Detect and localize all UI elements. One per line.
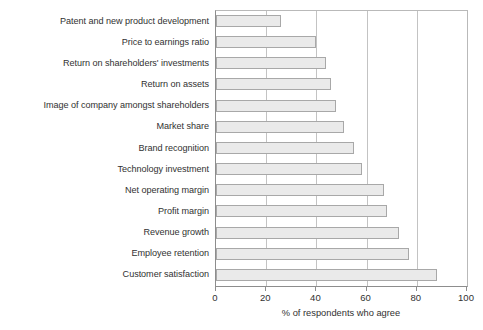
category-label: Technology investment — [0, 164, 209, 174]
tick-label: 100 — [446, 292, 483, 304]
bar — [216, 142, 354, 154]
tick-20 — [265, 286, 266, 291]
category-label: Patent and new product development — [0, 16, 209, 26]
bar-row — [216, 117, 467, 138]
tick-0 — [215, 286, 216, 291]
x-axis-title: % of respondents who agree — [215, 307, 467, 319]
category-label: Market share — [0, 121, 209, 131]
bar-row — [216, 265, 467, 286]
category-label: Net operating margin — [0, 185, 209, 195]
tick-label: 0 — [195, 292, 235, 304]
category-label: Image of company amongst shareholders — [0, 100, 209, 110]
tick-label: 40 — [295, 292, 335, 304]
bar — [216, 269, 437, 281]
bar — [216, 121, 344, 133]
category-label: Price to earnings ratio — [0, 37, 209, 47]
bar-row — [216, 244, 467, 265]
bar-row — [216, 180, 467, 201]
category-label: Employee retention — [0, 248, 209, 258]
tick-40 — [315, 286, 316, 291]
bar — [216, 78, 331, 90]
tick-80 — [416, 286, 417, 291]
category-label: Brand recognition — [0, 143, 209, 153]
bar-row — [216, 74, 467, 95]
bar — [216, 184, 384, 196]
bar — [216, 227, 399, 239]
category-label: Revenue growth — [0, 227, 209, 237]
bar — [216, 36, 316, 48]
bar-row — [216, 32, 467, 53]
tick-label: 60 — [346, 292, 386, 304]
bar-row — [216, 96, 467, 117]
tick-60 — [366, 286, 367, 291]
bar-row — [216, 223, 467, 244]
bar-row — [216, 11, 467, 32]
bar — [216, 57, 326, 69]
bar — [216, 163, 362, 175]
tick-label: 20 — [245, 292, 285, 304]
bar-row — [216, 201, 467, 222]
tick-label: 80 — [396, 292, 436, 304]
bar — [216, 205, 387, 217]
bar — [216, 15, 281, 27]
category-label: Profit margin — [0, 206, 209, 216]
category-label: Return on assets — [0, 79, 209, 89]
tick-100 — [466, 286, 467, 291]
bar-row — [216, 138, 467, 159]
bar-row — [216, 53, 467, 74]
plot-area — [215, 10, 468, 287]
category-axis-labels: Patent and new product developmentPrice … — [0, 10, 209, 285]
category-label: Return on shareholders' investments — [0, 58, 209, 68]
category-label: Customer satisfaction — [0, 269, 209, 279]
bar — [216, 100, 336, 112]
bar-row — [216, 159, 467, 180]
horizontal-bar-chart: Patent and new product developmentPrice … — [0, 0, 483, 330]
bar — [216, 248, 409, 260]
x-axis-tick-labels: 020406080100 — [0, 292, 483, 306]
